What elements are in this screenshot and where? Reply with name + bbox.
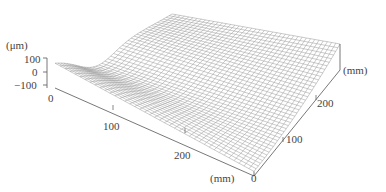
surface-plot [0, 0, 386, 192]
z-tick-100: 100 [24, 54, 41, 65]
surface-chart: (μm) 100 0 −100 0 100 200 (mm) 0 100 200… [0, 0, 386, 192]
z-tick-0: 0 [32, 67, 38, 78]
x-tick-100: 100 [103, 121, 120, 132]
y-tick-100: 100 [286, 134, 303, 145]
x-tick-0: 0 [48, 93, 54, 104]
y-tick-0: 0 [251, 173, 257, 184]
y-axis-unit-label: (mm) [343, 65, 367, 76]
x-tick-200: 200 [174, 150, 191, 161]
z-tick-minus-100: −100 [14, 80, 37, 91]
y-tick-200: 200 [317, 98, 334, 109]
z-axis-unit-label: (μm) [6, 40, 28, 51]
x-axis-unit-label: (mm) [210, 173, 234, 184]
